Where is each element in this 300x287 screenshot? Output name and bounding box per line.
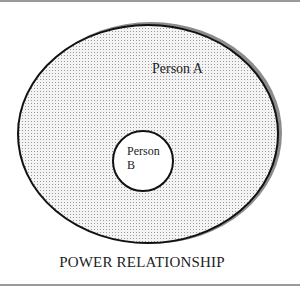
person-b-label: Person B [127, 144, 167, 172]
person-b-label-line1: Person [127, 144, 167, 158]
diagram-caption: POWER RELATIONSHIP [0, 254, 284, 271]
person-a-label: Person A [152, 61, 203, 77]
bottom-border [0, 284, 300, 286]
person-b-label-line2: B [127, 158, 167, 172]
